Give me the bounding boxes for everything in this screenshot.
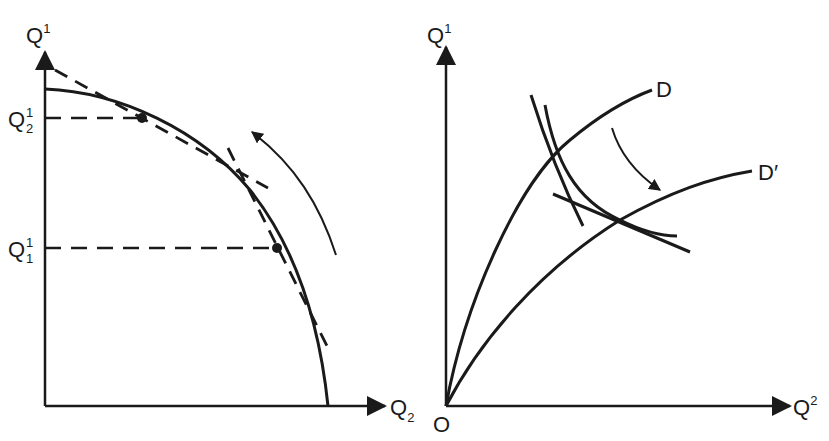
right-y-axis-label: Q1	[427, 21, 451, 48]
counterclockwise-arrow	[252, 132, 336, 255]
left-x-axis-label: Q2	[390, 395, 414, 425]
tick-label-q1-1-sup: 1	[26, 235, 33, 250]
curve-D-label: D	[656, 77, 672, 102]
steep-curve-2	[545, 105, 677, 236]
flat-line	[553, 194, 690, 252]
left-panel: Q1 Q2 Q 1 2 Q 1 1	[8, 21, 414, 425]
left-y-axis-label: Q1	[26, 21, 50, 48]
steep-curve-1	[531, 95, 583, 226]
upper-tangency-point	[137, 113, 147, 123]
lower-tangency-point	[272, 243, 282, 253]
upper-tangent-dashed	[55, 70, 268, 188]
right-panel: Q1 Q2 O D D′	[427, 21, 817, 437]
tick-label-q1-1: Q	[8, 237, 25, 262]
tick-label-q1-1-sub: 1	[26, 251, 33, 266]
tick-label-q1-2: Q	[8, 107, 25, 132]
origin-label: O	[433, 412, 450, 437]
tick-label-q1-2-sup: 1	[26, 105, 33, 120]
curve-D	[446, 90, 652, 406]
curve-D-prime-label: D′	[758, 160, 778, 185]
clockwise-arrow	[612, 128, 660, 190]
tick-label-q1-2-sub: 2	[26, 121, 33, 136]
diagram-canvas: Q1 Q2 Q 1 2 Q 1 1 Q1 Q2 O D D′	[0, 0, 829, 441]
right-x-axis-label: Q2	[793, 393, 817, 420]
